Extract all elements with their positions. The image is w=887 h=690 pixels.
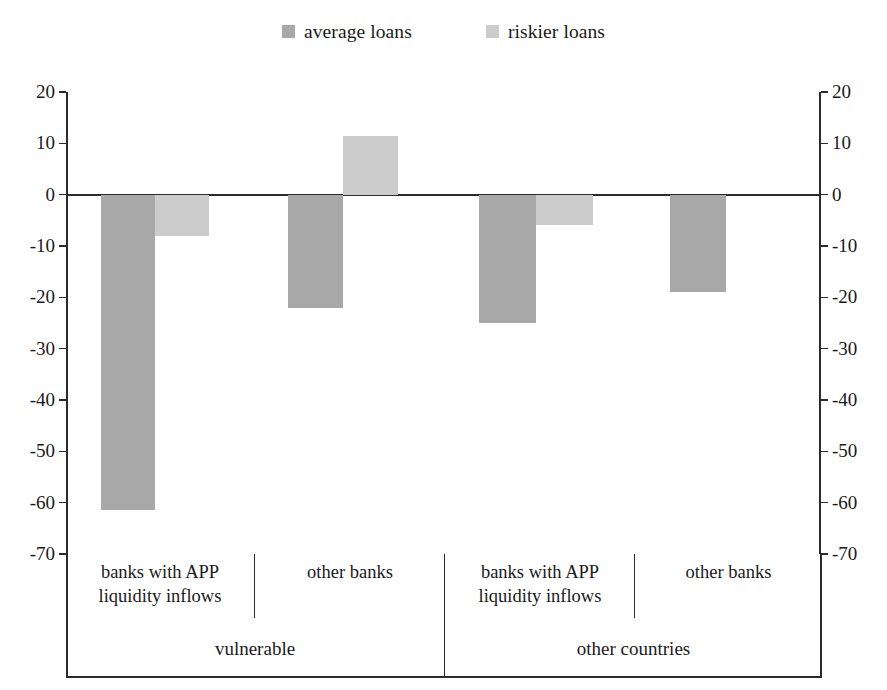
y-axis-tick-label: 0 — [46, 185, 56, 204]
y-axis-tick — [59, 553, 66, 554]
category-label: banks with APPliquidity inflows — [66, 560, 254, 608]
category-separator — [254, 554, 255, 618]
legend-label: average loans — [304, 22, 412, 42]
group-separator — [444, 618, 445, 678]
y-axis-tick — [821, 194, 828, 195]
y-axis-tick — [59, 348, 66, 349]
y-axis-tick — [59, 297, 66, 298]
y-axis-tick-label: -70 — [832, 544, 857, 563]
y-axis-tick-label: -50 — [832, 441, 857, 460]
category-separator — [444, 554, 445, 618]
group-label-band: vulnerableother countries — [66, 618, 821, 678]
legend-item-average-loans: average loans — [282, 22, 412, 42]
y-axis-tick-label: -20 — [30, 287, 55, 306]
y-axis-tick — [59, 399, 66, 400]
y-axis-tick-label: -10 — [30, 236, 55, 255]
category-label-band: banks with APPliquidity inflowsother ban… — [66, 554, 821, 618]
bar-riskier-loans — [343, 136, 398, 195]
plot-area: 20100-10-20-30-40-50-60-70 20100-10-20-3… — [66, 92, 821, 554]
y-axis-tick — [59, 194, 66, 195]
y-axis-tick-label: 10 — [36, 133, 55, 152]
y-axis-tick-label: -60 — [832, 493, 857, 512]
y-axis-tick — [821, 502, 828, 503]
y-axis-tick — [821, 91, 828, 92]
category-label-line: other banks — [636, 560, 821, 584]
category-label-line: banks with APP — [66, 560, 254, 584]
y-axis-tick-label: -10 — [832, 236, 857, 255]
y-axis-tick — [821, 553, 828, 554]
y-axis-tick-label: -20 — [832, 287, 857, 306]
category-label-line: liquidity inflows — [66, 584, 254, 608]
bar-riskier-loans — [155, 195, 209, 236]
y-axis-tick-label: -30 — [30, 339, 55, 358]
category-label: other banks — [256, 560, 444, 584]
group-label: vulnerable — [66, 638, 444, 660]
category-label: other banks — [636, 560, 821, 584]
chart-legend: average loans riskier loans — [0, 22, 887, 42]
bar-average-loans — [288, 195, 343, 308]
y-axis-tick — [59, 502, 66, 503]
legend-label: riskier loans — [508, 22, 605, 42]
y-axis-tick-label: -60 — [30, 493, 55, 512]
category-label-line: liquidity inflows — [446, 584, 634, 608]
y-axis-tick-label: 0 — [832, 185, 842, 204]
y-axis-tick — [59, 245, 66, 246]
frame-bottom-line — [66, 676, 822, 678]
square-swatch-icon — [282, 25, 295, 38]
y-axis-tick — [59, 143, 66, 144]
legend-item-riskier-loans: riskier loans — [486, 22, 605, 42]
y-axis-tick-label: 20 — [832, 82, 851, 101]
y-axis-tick — [821, 451, 828, 452]
y-axis-right — [819, 92, 821, 554]
category-label-line: banks with APP — [446, 560, 634, 584]
y-axis-tick — [821, 143, 828, 144]
bar-average-loans — [479, 195, 536, 323]
square-swatch-icon — [486, 25, 499, 38]
y-axis-tick-label: -40 — [832, 390, 857, 409]
y-axis-tick — [821, 297, 828, 298]
category-label: banks with APPliquidity inflows — [446, 560, 634, 608]
frame-right-line — [820, 554, 822, 677]
bar-average-loans — [101, 195, 155, 511]
category-separator — [634, 554, 635, 618]
y-axis-tick-label: -50 — [30, 441, 55, 460]
y-axis-tick — [821, 399, 828, 400]
y-axis-tick-label: 20 — [36, 82, 55, 101]
y-axis-tick — [59, 91, 66, 92]
category-label-line: other banks — [256, 560, 444, 584]
y-axis-tick-label: -70 — [30, 544, 55, 563]
frame-left-line — [66, 554, 68, 677]
y-axis-tick-label: -40 — [30, 390, 55, 409]
group-label: other countries — [446, 638, 821, 660]
bar-average-loans — [670, 195, 726, 293]
y-axis-tick — [821, 348, 828, 349]
bar-riskier-loans — [536, 195, 593, 226]
y-axis-tick-label: -30 — [832, 339, 857, 358]
y-axis-left — [66, 92, 68, 554]
y-axis-tick-label: 10 — [832, 133, 851, 152]
y-axis-tick — [821, 245, 828, 246]
y-axis-tick — [59, 451, 66, 452]
